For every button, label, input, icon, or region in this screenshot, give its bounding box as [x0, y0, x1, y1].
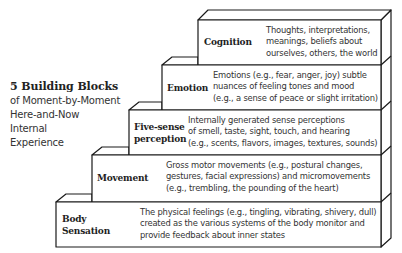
movement-description: Gross motor movements (e.g., postural ch…	[166, 160, 370, 194]
desc-line: meanings, beliefs about	[266, 36, 377, 47]
label-line: Movement	[97, 172, 148, 184]
cognition-top-face	[198, 10, 391, 20]
right-side-face	[381, 10, 391, 247]
title-line: Experience	[10, 136, 150, 150]
label-line: perception	[134, 133, 186, 145]
label-line: Body	[62, 213, 110, 225]
desc-line: Thoughts, interpretations,	[266, 25, 377, 36]
emotion-description: Emotions (e.g., fear, anger, joy) subtle…	[213, 70, 378, 104]
desc-line: (e.g., a sense of peace or slight irrita…	[213, 93, 378, 104]
desc-line: gestures, facial expressions) and microm…	[166, 171, 370, 182]
title-line: Here-and-Now	[10, 108, 150, 122]
cognition-label: Cognition	[204, 36, 252, 48]
five-sense-label: Five-sense perception	[134, 121, 186, 145]
label-line: Five-sense	[134, 121, 186, 133]
title-line: of Moment-by-Moment	[10, 94, 150, 108]
body-sensation-description: The physical feelings (e.g., tingling, v…	[140, 207, 376, 241]
body-sensation-label: Body Sensation	[62, 213, 110, 237]
emotion-top-face	[162, 57, 198, 65]
desc-line: of smell, taste, sight, touch, and heari…	[188, 126, 377, 137]
desc-line: The physical feelings (e.g., tingling, v…	[140, 207, 376, 218]
desc-line: provide feedback about inner states	[140, 230, 376, 241]
label-line: Sensation	[62, 225, 110, 237]
five-sense-description: Internally generated sense perceptions o…	[188, 115, 377, 149]
desc-line: (e.g., trembling, the pounding of the he…	[166, 183, 370, 194]
label-line: Cognition	[204, 36, 252, 48]
desc-line: created as the various systems of the bo…	[140, 218, 376, 229]
movement-label: Movement	[97, 172, 148, 184]
desc-line: nuances of feeling tones and mood	[213, 81, 378, 92]
desc-line: Emotions (e.g., fear, anger, joy) subtle	[213, 70, 378, 81]
title-line: Internal	[10, 122, 150, 136]
desc-line: (e.g., scents, flavors, images, textures…	[188, 138, 377, 149]
label-line: Emotion	[167, 82, 208, 94]
cognition-description: Thoughts, interpretations, meanings, bel…	[266, 25, 377, 59]
emotion-label: Emotion	[167, 82, 208, 94]
title-heading: 5 Building Blocks	[10, 80, 150, 94]
body-sensation-top-face	[56, 194, 92, 202]
desc-line: Gross motor movements (e.g., postural ch…	[166, 160, 370, 171]
desc-line: Internally generated sense perceptions	[188, 115, 377, 126]
desc-line: ourselves, others, the world	[266, 48, 377, 59]
diagram-title: 5 Building Blocks of Moment-by-Moment He…	[10, 80, 150, 150]
